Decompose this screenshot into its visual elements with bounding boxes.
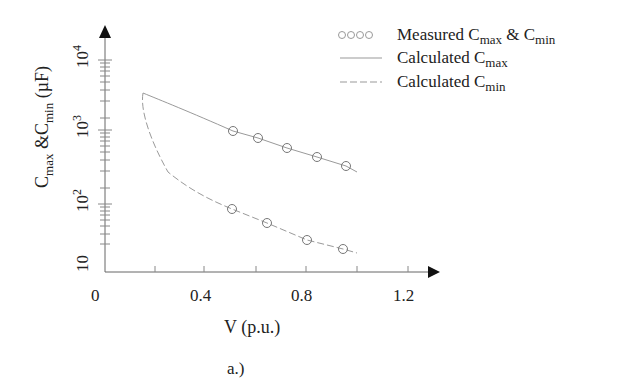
y-tick-10000: 104: [70, 45, 92, 68]
svg-text:Cmax &Cmin (µF): Cmax &Cmin (µF): [32, 66, 56, 188]
x-tick-1.2: 1.2: [393, 286, 414, 305]
svg-text:Calculated Cmin: Calculated Cmin: [397, 72, 506, 94]
svg-text:Measured Cmax & Cmin: Measured Cmax & Cmin: [397, 25, 556, 47]
y-axis-arrow-icon: [99, 25, 111, 38]
x-tick-0.8: 0.8: [291, 286, 312, 305]
y-axis-title: Cmax &Cmin (µF): [32, 66, 56, 188]
svg-text:102: 102: [70, 189, 92, 212]
x-tick-0.4: 0.4: [190, 286, 212, 305]
x-axis: [105, 266, 440, 278]
chart-canvas: 0 0.4 0.8 1.2 10 102 103 104 Cmax &Cmin …: [0, 0, 632, 390]
x-axis-arrow-icon: [428, 266, 440, 278]
legend-item-calculated-cmax: Calculated Cmax: [340, 48, 508, 70]
x-tick-0: 0: [91, 286, 100, 305]
svg-text:104: 104: [70, 45, 92, 68]
svg-text:103: 103: [70, 115, 92, 138]
series-measured-cmin: [228, 205, 348, 254]
figure-caption: a.): [227, 359, 244, 378]
y-tick-1000: 103: [70, 115, 92, 138]
x-axis-title: V (p.u.): [224, 317, 280, 338]
series-calculated-cmin: [142, 93, 357, 253]
svg-text:Calculated Cmax: Calculated Cmax: [397, 48, 508, 70]
legend: Measured Cmax & Cmin Calculated Cmax Cal…: [339, 25, 556, 94]
series-calculated-cmax: [143, 93, 357, 172]
svg-text:10: 10: [73, 255, 92, 272]
y-tick-100: 102: [70, 189, 92, 212]
y-tick-10: 10: [73, 255, 92, 272]
y-axis: [98, 25, 112, 272]
legend-item-measured: Measured Cmax & Cmin: [339, 25, 556, 47]
circle-marker-icon: [339, 32, 373, 39]
legend-item-calculated-cmin: Calculated Cmin: [340, 72, 506, 94]
